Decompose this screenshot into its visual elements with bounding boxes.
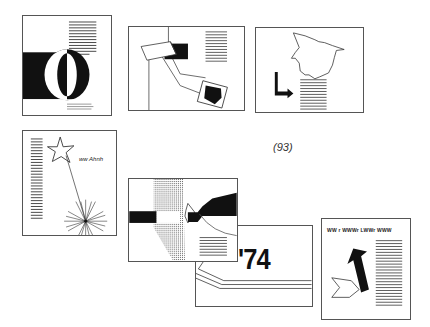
up-arrow-artwork <box>322 219 410 319</box>
thumbnail-collage-arrow <box>128 26 245 111</box>
o-letter-artwork <box>23 16 111 115</box>
up-arrow-headline: WW r WWWr LWWr WWW <box>327 227 392 233</box>
star-burst-artwork <box>23 131 116 235</box>
thumbnail-o-letter <box>22 15 112 116</box>
collage-artwork <box>129 27 244 110</box>
black-wave-artwork <box>129 179 237 261</box>
thumbnail-black-wave <box>128 178 238 262</box>
page-number: (93) <box>273 141 293 153</box>
map-arrow-artwork <box>256 28 363 112</box>
thumbnail-star-burst: ww Ahnh <box>22 130 117 236</box>
year-numeral: '74 <box>238 242 270 276</box>
thumbnail-map-arrow <box>255 27 364 113</box>
star-label: ww Ahnh <box>79 156 103 162</box>
thumbnail-up-arrow: WW r WWWr LWWr WWW <box>321 218 411 320</box>
